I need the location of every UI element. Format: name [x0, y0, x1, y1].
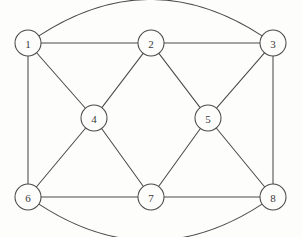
- graph-node-label-4: 4: [91, 113, 97, 125]
- graph-edge-1-4: [37, 53, 86, 108]
- graph-edge-2-4: [102, 53, 143, 107]
- graph-edge-3-5: [217, 53, 265, 108]
- graph-edge-4-6: [36, 128, 85, 187]
- graph-canvas: 12345678: [0, 0, 302, 237]
- graph-node-label-3: 3: [270, 38, 276, 50]
- graph-node-8[interactable]: 8: [260, 184, 286, 210]
- graph-edge-5-7: [159, 129, 201, 187]
- graph-node-label-2: 2: [148, 38, 154, 50]
- graph-node-1[interactable]: 1: [15, 30, 41, 56]
- graph-node-label-5: 5: [205, 113, 211, 125]
- graph-edge-4-7: [102, 129, 144, 187]
- graph-node-label-1: 1: [25, 38, 31, 50]
- graph-edge-2-5: [159, 53, 200, 107]
- graph-node-label-6: 6: [25, 192, 31, 204]
- graph-node-2[interactable]: 2: [138, 30, 164, 56]
- graph-node-label-7: 7: [148, 192, 154, 204]
- graph-node-label-8: 8: [270, 192, 276, 204]
- graph-diagram: 12345678: [0, 0, 302, 237]
- graph-node-4[interactable]: 4: [81, 105, 107, 131]
- nodes-layer: 12345678: [15, 30, 286, 210]
- graph-edge-5-8: [216, 128, 264, 187]
- graph-node-5[interactable]: 5: [195, 105, 221, 131]
- graph-node-3[interactable]: 3: [260, 30, 286, 56]
- graph-node-7[interactable]: 7: [138, 184, 164, 210]
- graph-node-6[interactable]: 6: [15, 184, 41, 210]
